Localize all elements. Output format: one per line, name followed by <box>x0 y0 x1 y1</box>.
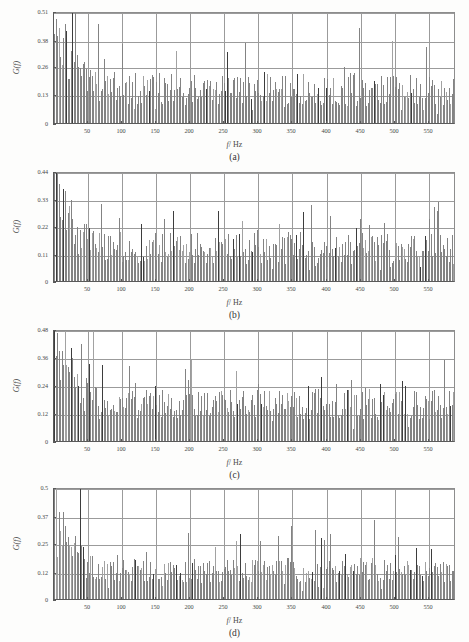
x-tick-label: 200 <box>177 128 201 134</box>
plot-area-b <box>53 172 455 282</box>
y-tick-label: 0.25 <box>2 541 48 547</box>
x-tick-label: 350 <box>279 286 303 292</box>
y-tick-mark <box>53 124 56 125</box>
x-tick-label: 250 <box>211 604 235 610</box>
y-tick-mark <box>53 442 56 443</box>
panel-caption-c: (c) <box>0 470 469 480</box>
y-tick-label: 0.33 <box>2 197 48 203</box>
x-tick-label: 100 <box>109 286 133 292</box>
x-tick-label: 400 <box>314 446 338 452</box>
x-tick-label: 300 <box>245 604 269 610</box>
bar-series-a <box>54 13 454 123</box>
y-tick-label: 0.12 <box>2 411 48 417</box>
y-tick-label: 0.36 <box>2 355 48 361</box>
x-tick-label: 500 <box>382 604 406 610</box>
x-tick-label: 350 <box>279 446 303 452</box>
x-tick-label: 200 <box>177 604 201 610</box>
plot-area-a <box>53 12 455 124</box>
x-tick-label: 200 <box>177 446 201 452</box>
panel-caption-a: (a) <box>0 152 469 162</box>
x-tick-label: 450 <box>348 128 372 134</box>
x-axis-label-b: f/ Hz <box>0 298 469 307</box>
x-tick-label: 50 <box>75 604 99 610</box>
x-tick-label: 250 <box>211 286 235 292</box>
y-tick-label: 0 <box>2 597 48 603</box>
axes-a <box>53 12 455 124</box>
axes-c <box>53 330 455 442</box>
spectrum-bar <box>455 418 456 441</box>
y-tick-label: 0.51 <box>2 9 48 15</box>
x-axis-label-d: f/ Hz <box>0 616 469 625</box>
y-tick-label: 0.13 <box>2 92 48 98</box>
bar-series-d <box>54 489 454 599</box>
x-tick-label: 100 <box>109 446 133 452</box>
y-tick-label: 0 <box>2 439 48 445</box>
x-axis-label-a: f/ Hz <box>0 140 469 149</box>
x-tick-label: 150 <box>143 604 167 610</box>
x-tick-label: 550 <box>416 604 440 610</box>
x-tick-label: 250 <box>211 446 235 452</box>
y-axis-label-a: G(f) <box>12 48 21 88</box>
bar-series-b <box>54 173 454 281</box>
y-tick-label: 0.38 <box>2 38 48 44</box>
y-tick-label: 0.11 <box>2 252 48 258</box>
plot-area-d <box>53 488 455 600</box>
y-tick-label: 0.48 <box>2 327 48 333</box>
y-tick-label: 0.5 <box>2 485 48 491</box>
bar-series-c <box>54 331 454 441</box>
x-tick-label: 250 <box>211 128 235 134</box>
x-axis-unit: / Hz <box>229 458 243 467</box>
spectrum-bar <box>455 581 456 599</box>
x-tick-label: 50 <box>75 128 99 134</box>
x-tick-label: 450 <box>348 446 372 452</box>
axes-b <box>53 172 455 282</box>
spectrum-bar <box>455 94 456 123</box>
x-axis-label-c: f/ Hz <box>0 458 469 467</box>
x-tick-label: 400 <box>314 286 338 292</box>
spectrum-figure: 00.130.260.380.5150100150200250300350400… <box>0 0 469 642</box>
x-tick-label: 500 <box>382 128 406 134</box>
y-tick-label: 0 <box>2 279 48 285</box>
x-tick-label: 500 <box>382 446 406 452</box>
y-tick-label: 0.24 <box>2 383 48 389</box>
y-tick-label: 0 <box>2 121 48 127</box>
spectrum-bar <box>455 262 456 281</box>
x-axis-unit: / Hz <box>229 616 243 625</box>
x-tick-label: 300 <box>245 446 269 452</box>
x-tick-label: 50 <box>75 286 99 292</box>
panel-caption-d: (d) <box>0 628 469 638</box>
y-tick-label: 0.22 <box>2 224 48 230</box>
x-tick-label: 100 <box>109 128 133 134</box>
y-tick-label: 0.26 <box>2 64 48 70</box>
y-axis-label-c: G(f) <box>12 366 21 406</box>
x-tick-label: 500 <box>382 286 406 292</box>
x-tick-label: 150 <box>143 286 167 292</box>
x-tick-label: 200 <box>177 286 201 292</box>
x-axis-unit: / Hz <box>229 140 243 149</box>
y-tick-label: 0.12 <box>2 570 48 576</box>
panel-caption-b: (b) <box>0 310 469 320</box>
x-axis-unit: / Hz <box>229 298 243 307</box>
x-tick-label: 400 <box>314 604 338 610</box>
x-tick-label: 100 <box>109 604 133 610</box>
x-tick-label: 550 <box>416 128 440 134</box>
x-tick-label: 450 <box>348 286 372 292</box>
x-tick-label: 150 <box>143 446 167 452</box>
y-axis-label-b: G(f) <box>12 207 21 247</box>
x-tick-label: 450 <box>348 604 372 610</box>
axes-d <box>53 488 455 600</box>
x-tick-label: 350 <box>279 604 303 610</box>
y-tick-label: 0.44 <box>2 169 48 175</box>
x-tick-label: 550 <box>416 446 440 452</box>
x-tick-label: 300 <box>245 128 269 134</box>
y-tick-mark <box>53 282 56 283</box>
plot-area-c <box>53 330 455 442</box>
x-tick-label: 550 <box>416 286 440 292</box>
y-tick-mark <box>53 600 56 601</box>
x-tick-label: 300 <box>245 286 269 292</box>
y-axis-label-d: G(f) <box>12 524 21 564</box>
x-tick-label: 350 <box>279 128 303 134</box>
x-tick-label: 400 <box>314 128 338 134</box>
x-tick-label: 150 <box>143 128 167 134</box>
y-tick-label: 0.37 <box>2 514 48 520</box>
